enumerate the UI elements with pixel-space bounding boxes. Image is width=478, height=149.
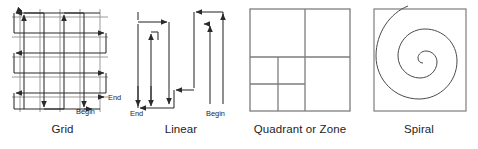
caption-quadrant: Quadrant or Zone — [238, 123, 362, 135]
linear-end-label: End — [130, 109, 143, 118]
grid-begin-label: Begin — [76, 107, 95, 116]
spiral-curve — [376, 6, 457, 99]
spiral-border — [374, 9, 466, 111]
linear-diagram: End Begin — [122, 0, 240, 120]
grid-lines — [12, 9, 108, 112]
figure-spiral: Spiral — [360, 0, 478, 149]
linear-end-arrows — [138, 86, 151, 106]
spiral-diagram — [360, 0, 478, 120]
linear-begin-label: Begin — [206, 109, 225, 118]
grid-diagram: End Begin — [0, 0, 125, 120]
quadrant-zones — [250, 9, 350, 111]
grid-comb-path — [24, 13, 100, 109]
grid-end-label: End — [108, 93, 121, 102]
search-patterns-figure: End Begin Grid — [0, 0, 478, 149]
caption-linear: Linear — [122, 123, 240, 135]
figure-grid: End Begin Grid — [0, 0, 125, 149]
quadrant-diagram — [238, 0, 362, 120]
caption-grid: Grid — [0, 123, 125, 135]
caption-spiral: Spiral — [360, 123, 478, 135]
figure-linear: End Begin Linear — [122, 0, 240, 149]
figure-quadrant: Quadrant or Zone — [238, 0, 362, 149]
